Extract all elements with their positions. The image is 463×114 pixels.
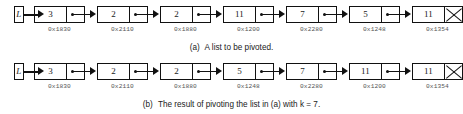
pointer-shaft [136, 14, 147, 16]
list-node-group: 20x1880 [160, 57, 223, 90]
node-link-arrow [148, 63, 160, 80]
arrow-head-icon [405, 10, 411, 18]
node-box: 11 [412, 6, 463, 23]
list-node-group: 20x2110 [97, 57, 160, 90]
node-link-arrow [85, 6, 97, 23]
arrow-head-icon [279, 67, 285, 75]
node-value-cell: 2 [98, 64, 129, 79]
list-node-group: 110x1354 [412, 57, 463, 90]
list-node: 110x1200 [223, 0, 274, 33]
node-pointer-cell [381, 7, 399, 22]
head-pointer-arrow-b [24, 63, 35, 80]
linked-list-diagram-a: L 30x183020x211020x1880110x120070x228050… [0, 0, 463, 42]
list-node-group: 70x2280 [286, 57, 349, 90]
node-chain-a: 30x183020x211020x1880110x120070x228050x1… [34, 0, 463, 33]
node-pointer-cell [66, 7, 84, 22]
node-pointer-cell [255, 64, 273, 79]
pointer-shaft [73, 14, 84, 16]
node-pointer-cell [129, 7, 147, 22]
arrow-head-icon [342, 67, 348, 75]
list-node: 50x1248 [223, 57, 274, 90]
figure-caption-b: (b) The result of pivoting the list in (… [0, 99, 463, 109]
node-address-label: 0x1200 [237, 26, 260, 33]
pointer-shaft [199, 14, 210, 16]
node-value-cell: 11 [224, 7, 255, 22]
caption-label-a: (a) [190, 43, 200, 52]
arrow-head-icon [405, 67, 411, 75]
node-box: 2 [97, 6, 148, 23]
node-pointer-cell [129, 64, 147, 79]
pointer-shaft [262, 14, 273, 16]
node-null-pointer-icon [444, 64, 462, 79]
list-node: 20x1880 [160, 57, 211, 90]
list-node: 20x2110 [97, 0, 148, 33]
pointer-shaft [388, 71, 399, 73]
node-value-cell: 11 [413, 7, 444, 22]
arrow-shaft [24, 14, 39, 16]
node-pointer-cell [381, 64, 399, 79]
node-pointer-cell [192, 64, 210, 79]
list-node-group: 50x1248 [349, 0, 412, 33]
arrow-head-icon [153, 67, 159, 75]
node-pointer-cell [255, 7, 273, 22]
arrow-head-icon [90, 10, 96, 18]
node-box: 11 [412, 63, 463, 80]
node-value-cell: 7 [287, 64, 318, 79]
linked-list-pivot-figure: L 30x183020x211020x1880110x120070x228050… [0, 0, 463, 114]
node-box: 11 [349, 63, 400, 80]
node-pointer-cell [192, 7, 210, 22]
list-node: 20x2110 [97, 57, 148, 90]
node-link-arrow [274, 63, 286, 80]
node-value-cell: 2 [98, 7, 129, 22]
list-node: 70x2280 [286, 0, 337, 33]
caption-label-b: (b) [143, 100, 153, 109]
node-address-label: 0x2110 [111, 26, 134, 33]
figure-caption-a: (a) A list to be pivoted. [0, 42, 463, 52]
node-address-label: 0x1830 [48, 83, 71, 90]
node-value-cell: 2 [161, 7, 192, 22]
list-node: 110x1354 [412, 0, 463, 33]
node-link-arrow [148, 6, 160, 23]
arrow-head-icon [216, 10, 222, 18]
pointer-shaft [199, 71, 210, 73]
node-address-label: 0x1880 [174, 26, 197, 33]
node-address-label: 0x2280 [300, 26, 323, 33]
node-box: 11 [223, 6, 274, 23]
list-node-group: 20x2110 [97, 0, 160, 33]
caption-text-b: The result of pivoting the list in (a) w… [158, 100, 320, 109]
list-node: 70x2280 [286, 57, 337, 90]
node-value-cell: 5 [224, 64, 255, 79]
node-address-label: 0x1248 [237, 83, 260, 90]
caption-text-a: A list to be pivoted. [205, 43, 274, 52]
node-box: 7 [286, 63, 337, 80]
head-pointer-box-b: L [14, 63, 24, 80]
list-node-group: 110x1200 [349, 57, 412, 90]
node-link-arrow [400, 6, 412, 23]
pointer-shaft [73, 71, 84, 73]
node-address-label: 0x2280 [300, 83, 323, 90]
list-node: 110x1200 [349, 57, 400, 90]
pointer-shaft [325, 71, 336, 73]
node-link-arrow [211, 63, 223, 80]
arrow-head-icon [38, 67, 44, 75]
list-node-group: 20x1880 [160, 0, 223, 33]
node-value-cell: 7 [287, 7, 318, 22]
node-box: 5 [223, 63, 274, 80]
node-address-label: 0x1200 [363, 83, 386, 90]
figure-panel-b: L 30x183020x211020x188050x124870x2280110… [0, 57, 463, 114]
linked-list-diagram-b: L 30x183020x211020x188050x124870x2280110… [0, 57, 463, 99]
head-pointer-box-a: L [14, 6, 24, 23]
node-address-label: 0x1354 [426, 83, 449, 90]
arrow-head-icon [216, 67, 222, 75]
arrow-head-icon [38, 10, 44, 18]
pointer-shaft [136, 71, 147, 73]
node-value-cell: 5 [350, 7, 381, 22]
node-box: 2 [160, 6, 211, 23]
pointer-shaft [262, 71, 273, 73]
node-value-cell: 2 [161, 64, 192, 79]
node-null-pointer-icon [444, 7, 462, 22]
list-node: 110x1354 [412, 57, 463, 90]
pointer-shaft [325, 14, 336, 16]
list-node-group: 110x1354 [412, 0, 463, 33]
node-address-label: 0x1830 [48, 26, 71, 33]
